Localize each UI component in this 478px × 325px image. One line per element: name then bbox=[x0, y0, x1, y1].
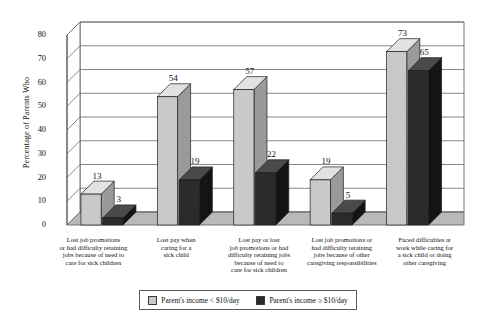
category-label-4: Lost job promotions orhad difficulty ret… bbox=[300, 236, 383, 286]
category-label-5: Faced difficulties atwork while caring f… bbox=[383, 236, 466, 286]
y-tick-label-10: 10 bbox=[24, 197, 46, 205]
data-label-5-series-1: 73 bbox=[398, 28, 408, 38]
data-label-4-series-2: 5 bbox=[346, 190, 351, 200]
legend-item-high-income: Parent's income ≥ $10/day bbox=[256, 296, 347, 305]
category-label-3: Lost pay or lostjob promotions or haddif… bbox=[218, 236, 301, 286]
y-tick-label-40: 40 bbox=[24, 126, 46, 134]
plot-area: 133541957221957365 bbox=[52, 20, 466, 231]
data-label-3-series-1: 57 bbox=[245, 66, 255, 76]
bar-5-series-2 bbox=[408, 58, 441, 225]
y-tick-label-70: 70 bbox=[24, 55, 46, 63]
category-labels: Lost job promotionsor had difficulty ret… bbox=[52, 236, 466, 286]
data-label-2-series-1: 54 bbox=[169, 73, 179, 83]
category-label-1: Lost job promotionsor had difficulty ret… bbox=[52, 236, 135, 286]
chart-root: Percentage of Parents Who 80706050403020… bbox=[0, 0, 478, 325]
bar-2-series-2 bbox=[179, 167, 212, 225]
legend-swatch-icon-light bbox=[148, 296, 157, 305]
legend-swatch-icon-dark bbox=[256, 296, 265, 305]
legend-item-low-income: Parent's income < $10/day bbox=[148, 296, 239, 305]
legend-label-low-income: Parent's income < $10/day bbox=[161, 296, 239, 305]
y-tick-label-0: 0 bbox=[24, 221, 46, 229]
data-label-1-series-2: 3 bbox=[116, 194, 121, 204]
bar-3-series-2 bbox=[256, 160, 289, 225]
y-tick-label-20: 20 bbox=[24, 174, 46, 182]
data-label-1-series-1: 13 bbox=[92, 171, 102, 181]
data-label-5-series-2: 65 bbox=[420, 47, 430, 57]
data-label-2-series-2: 19 bbox=[191, 156, 201, 166]
y-tick-label-30: 30 bbox=[24, 150, 46, 158]
chart-canvas: 133541957221957365 bbox=[52, 20, 466, 231]
data-label-3-series-2: 22 bbox=[267, 149, 276, 159]
y-tick-label-50: 50 bbox=[24, 102, 46, 110]
data-label-4-series-1: 19 bbox=[322, 156, 332, 166]
legend-label-high-income: Parent's income ≥ $10/day bbox=[269, 296, 347, 305]
y-tick-label-60: 60 bbox=[24, 79, 46, 87]
chart-legend: Parent's income < $10/day Parent's incom… bbox=[139, 290, 357, 310]
y-tick-label-80: 80 bbox=[24, 31, 46, 39]
category-label-2: Lost pay whencaring for asick child bbox=[135, 236, 218, 286]
